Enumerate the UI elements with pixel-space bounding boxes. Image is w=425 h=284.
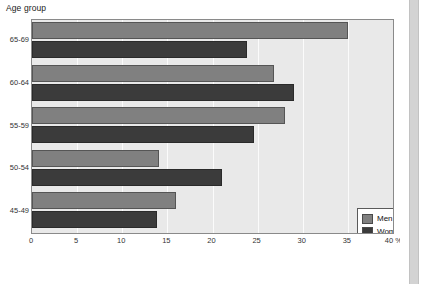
bar-women-65-69[interactable]: [32, 41, 247, 58]
y-tick-label-65-69: 65-69: [1, 35, 29, 44]
bar-women-45-49[interactable]: [32, 211, 157, 228]
y-axis: 65-6960-6455-5950-5445-49: [0, 19, 29, 234]
y-tick-label-60-64: 60-64: [1, 78, 29, 87]
chart-figure: Age group 65-6960-6455-5950-5445-49 Men …: [0, 0, 400, 284]
y-tick-label-50-54: 50-54: [1, 163, 29, 172]
bar-group: [32, 20, 393, 63]
x-tick-label-10: 10: [117, 236, 125, 245]
legend-item-women[interactable]: Women: [362, 225, 394, 234]
bar-men-65-69[interactable]: [32, 22, 348, 39]
bar-men-60-64[interactable]: [32, 65, 274, 82]
x-axis: 0510152025303540 %: [31, 236, 394, 250]
bar-men-50-54[interactable]: [32, 150, 159, 167]
scrollbar-track[interactable]: [409, 0, 419, 284]
bar-men-55-59[interactable]: [32, 107, 285, 124]
bar-women-50-54[interactable]: [32, 169, 222, 186]
bar-women-60-64[interactable]: [32, 84, 294, 101]
legend-swatch-men-icon: [362, 214, 373, 224]
bar-group: [32, 63, 393, 106]
bar-group: [32, 148, 393, 191]
bar-men-45-49[interactable]: [32, 192, 176, 209]
bar-group: [32, 105, 393, 148]
x-tick-label-5: 5: [74, 236, 78, 245]
bar-series-container: [32, 20, 393, 233]
y-tick-label-45-49: 45-49: [1, 206, 29, 215]
x-tick-label-30: 30: [298, 236, 306, 245]
vertical-scrollbar[interactable]: [400, 0, 425, 284]
legend-item-men[interactable]: Men: [362, 212, 394, 225]
chart-legend[interactable]: Men Women: [357, 208, 394, 234]
y-tick-label-55-59: 55-59: [1, 121, 29, 130]
plot-area: Men Women: [31, 19, 394, 234]
legend-label-women: Women: [377, 227, 394, 234]
legend-label-men: Men: [377, 214, 393, 223]
x-tick-label-15: 15: [162, 236, 170, 245]
bar-group: [32, 190, 393, 233]
bar-women-55-59[interactable]: [32, 126, 254, 143]
x-tick-label-0: 0: [29, 236, 33, 245]
x-tick-label-20: 20: [207, 236, 215, 245]
x-tick-label-25: 25: [252, 236, 260, 245]
legend-swatch-women-icon: [362, 227, 373, 235]
y-axis-title: Age group: [6, 3, 46, 13]
x-tick-label-35: 35: [343, 236, 351, 245]
